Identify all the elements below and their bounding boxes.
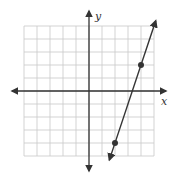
data-point [138, 62, 144, 68]
y-axis-label: y [94, 10, 102, 23]
coordinate-plane: x y [0, 0, 174, 176]
axes: x y [12, 10, 168, 171]
function-line [109, 21, 155, 160]
data-point [112, 140, 118, 146]
data-series [109, 21, 155, 160]
x-axis-label: x [161, 95, 168, 108]
